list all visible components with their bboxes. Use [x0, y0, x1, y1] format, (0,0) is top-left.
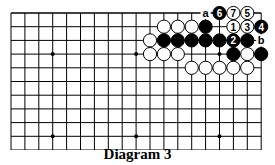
white-stone: [213, 61, 226, 74]
black-stone: [213, 34, 226, 47]
black-stone: [227, 48, 240, 61]
black-stone: [185, 34, 198, 47]
black-stone: [199, 20, 212, 33]
go-board: ab6751342: [0, 0, 275, 150]
hoshi-point: [51, 52, 55, 56]
white-stone: [143, 48, 156, 61]
white-stone: [199, 61, 212, 74]
black-stone: [171, 34, 184, 47]
black-stone: [241, 34, 254, 47]
hoshi-point: [134, 134, 138, 138]
black-stone: [157, 34, 170, 47]
white-stone: [143, 34, 156, 47]
white-stone: [157, 20, 170, 33]
point-label-b: b: [258, 34, 265, 46]
hoshi-point: [218, 52, 222, 56]
white-stone: [227, 61, 240, 74]
white-stone: [241, 61, 254, 74]
white-stone: [185, 20, 198, 33]
hoshi-point: [134, 52, 138, 56]
white-stone: [171, 48, 184, 61]
move-number-5: 5: [245, 8, 251, 19]
move-number-2: 2: [231, 35, 237, 46]
white-stone: [157, 48, 170, 61]
black-stone: [199, 34, 212, 47]
diagram-caption: Diagram 3: [0, 146, 275, 163]
black-stone: [255, 48, 268, 61]
move-number-3: 3: [245, 22, 251, 33]
white-stone: [171, 20, 184, 33]
move-number-6: 6: [217, 8, 223, 19]
hoshi-point: [51, 134, 55, 138]
move-number-4: 4: [258, 22, 264, 33]
move-number-7: 7: [231, 8, 237, 19]
white-stone: [185, 61, 198, 74]
white-stone: [241, 48, 254, 61]
point-label-a: a: [203, 7, 210, 19]
hoshi-point: [218, 134, 222, 138]
move-number-1: 1: [231, 22, 237, 33]
